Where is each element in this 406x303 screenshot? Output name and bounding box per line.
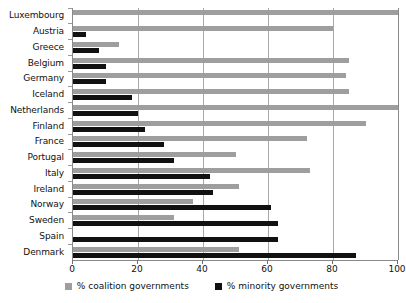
chart-legend: % coalition governments% minority govern… (0, 281, 403, 303)
bar-minority (73, 32, 86, 37)
bar-row (73, 71, 398, 87)
bar-row (73, 134, 398, 150)
bar-coalition (73, 105, 398, 110)
category-label: Iceland (0, 87, 68, 103)
bar-coalition (73, 10, 398, 15)
category-label: Belgium (0, 55, 68, 71)
category-label: Denmark (0, 244, 68, 260)
legend-label: % minority governments (227, 281, 338, 291)
category-label: Netherlands (0, 103, 68, 119)
category-label: Austria (0, 24, 68, 40)
bar-minority (73, 174, 210, 179)
bar-row (73, 40, 398, 56)
bar-coalition (73, 152, 236, 157)
x-tick-label: 100 (388, 263, 405, 275)
bar-row (73, 24, 398, 40)
bar-minority (73, 79, 106, 84)
bar-minority (73, 64, 106, 69)
bar-minority (73, 253, 356, 258)
category-label: Germany (0, 71, 68, 87)
gridline-100 (398, 8, 399, 260)
category-label: Norway (0, 197, 68, 213)
bar-rows (73, 8, 398, 260)
x-tick-label: 60 (261, 263, 272, 275)
x-tick-label: 20 (131, 263, 142, 275)
legend-item-coalition[interactable]: % coalition governments (65, 281, 189, 291)
bar-minority (73, 142, 164, 147)
bar-row (73, 213, 398, 229)
bar-coalition (73, 73, 346, 78)
bar-coalition (73, 247, 239, 252)
bar-minority (73, 190, 213, 195)
bar-coalition (73, 26, 333, 31)
bar-row (73, 181, 398, 197)
category-label: Ireland (0, 181, 68, 197)
bar-row (73, 166, 398, 182)
bar-minority (73, 205, 271, 210)
plot-wrapper: LuxembourgAustriaGreeceBelgiumGermanyIce… (0, 0, 403, 272)
bar-coalition (73, 121, 366, 126)
legend-item-minority[interactable]: % minority governments (215, 281, 338, 291)
bar-coalition (73, 199, 193, 204)
category-label: Portugal (0, 150, 68, 166)
bar-minority (73, 237, 278, 242)
bar-minority (73, 127, 145, 132)
bar-row (73, 229, 398, 245)
category-label: Sweden (0, 213, 68, 229)
legend-swatch-icon (65, 283, 72, 290)
bar-coalition (73, 136, 307, 141)
bar-minority (73, 95, 132, 100)
plot-area (72, 8, 398, 261)
x-tick-label: 80 (326, 263, 337, 275)
category-label: Luxembourg (0, 8, 68, 24)
category-label: France (0, 134, 68, 150)
bar-coalition (73, 42, 119, 47)
bar-row (73, 118, 398, 134)
x-tick-label: 0 (69, 263, 75, 275)
legend-label: % coalition governments (77, 281, 189, 291)
legend-swatch-icon (215, 283, 222, 290)
bar-coalition (73, 168, 310, 173)
bar-minority (73, 221, 278, 226)
bar-minority (73, 158, 174, 163)
bar-row (73, 55, 398, 71)
category-label: Greece (0, 40, 68, 56)
bar-row (73, 244, 398, 260)
category-label: Finland (0, 118, 68, 134)
bar-row (73, 8, 398, 24)
x-tick-label: 40 (196, 263, 207, 275)
bar-coalition (73, 89, 349, 94)
bar-coalition (73, 184, 239, 189)
category-label: Spain (0, 229, 68, 245)
bar-row (73, 87, 398, 103)
x-axis-tick-labels: 020406080100 (72, 263, 397, 277)
bar-minority (73, 48, 99, 53)
bar-coalition (73, 58, 349, 63)
bar-row (73, 150, 398, 166)
category-axis-labels: LuxembourgAustriaGreeceBelgiumGermanyIce… (0, 8, 68, 260)
bar-row (73, 103, 398, 119)
bar-row (73, 197, 398, 213)
bar-minority (73, 111, 138, 116)
category-label: Italy (0, 166, 68, 182)
bar-coalition (73, 215, 174, 220)
